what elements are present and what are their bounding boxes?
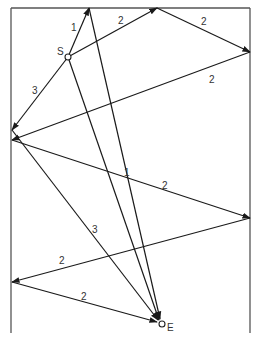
direct-ray <box>68 57 159 320</box>
path-1-label: 1 <box>124 167 130 178</box>
path-2-seg-5 <box>12 218 250 282</box>
path-2-label: 2 <box>81 291 87 302</box>
path-3-label: 3 <box>92 224 98 235</box>
path-2-label: 2 <box>162 180 168 191</box>
path-3-seg-1 <box>12 57 68 130</box>
path-2-seg-2 <box>157 8 250 52</box>
path-2: 2 2 2 2 2 2 <box>12 8 250 322</box>
path-2-seg-4 <box>12 140 250 218</box>
path-2-label: 2 <box>209 74 215 85</box>
path-3: 3 3 <box>12 57 158 320</box>
path-2-label: 2 <box>201 16 207 27</box>
end-label: E <box>167 322 174 333</box>
path-2-seg-6 <box>12 282 157 322</box>
path-1-label: 1 <box>71 22 77 33</box>
reflection-diagram: 1 1 2 2 2 2 2 2 3 3 S E <box>0 0 261 339</box>
path-2-label: 2 <box>59 255 65 266</box>
end-point <box>159 321 165 327</box>
path-2-seg-3 <box>12 52 250 140</box>
path-3-label: 3 <box>32 85 38 96</box>
path-2-label: 2 <box>118 15 124 26</box>
path-2-seg-1 <box>68 8 157 57</box>
source-label: S <box>57 46 64 57</box>
source-point <box>65 54 71 60</box>
path-1-seg-2 <box>89 8 160 319</box>
